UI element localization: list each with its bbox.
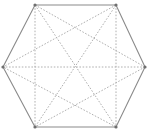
- vertex-left: [1, 65, 4, 68]
- diagonals-group: [3, 5, 145, 127]
- vertex-top-right: [114, 3, 117, 6]
- diagonal-v2-v5: [35, 5, 116, 127]
- vertex-top-left: [33, 3, 36, 6]
- vertex-bottom-left: [33, 125, 36, 128]
- vertex-right: [143, 65, 146, 68]
- diagonal-v3-v5: [35, 67, 145, 127]
- vertex-bottom-right: [114, 125, 117, 128]
- diagonal-v1-v3: [35, 5, 145, 67]
- hexagon-outline: [3, 5, 145, 127]
- hexagon-outline-group: [3, 5, 145, 127]
- diagonal-v1-v4: [35, 5, 116, 127]
- diagonal-v2-v6: [3, 5, 116, 67]
- hexagon-complete-graph-svg: [0, 0, 148, 134]
- hexagon-diagram-figure: [0, 0, 148, 134]
- diagonal-v4-v6: [3, 67, 116, 127]
